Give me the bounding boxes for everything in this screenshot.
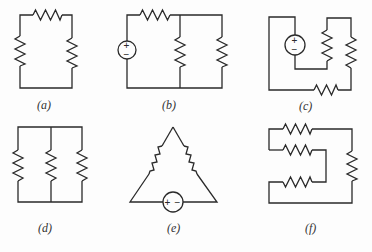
circuit-d: (d)	[13, 127, 87, 235]
resistor-icon	[217, 37, 227, 67]
minus-sign: −	[175, 197, 181, 208]
circuit-b: + − (b)	[118, 10, 227, 112]
resistor-icon	[33, 10, 62, 20]
panel-label: (d)	[38, 221, 52, 235]
circuit-a: (a)	[15, 10, 77, 112]
minus-sign: −	[124, 49, 130, 60]
resistor-icon	[283, 145, 312, 155]
panel-label: (f)	[305, 221, 316, 235]
panel-label: (e)	[167, 221, 180, 235]
resistor-icon	[175, 37, 185, 67]
circuit-e: + − (e)	[130, 127, 217, 235]
minus-sign: −	[292, 44, 298, 55]
resistor-icon	[149, 146, 162, 174]
circuit-c: + − (c)	[269, 17, 356, 113]
resistor-icon	[347, 151, 357, 181]
resistor-icon	[283, 124, 312, 134]
resistor-icon	[314, 85, 338, 95]
panel-label: (b)	[162, 98, 176, 112]
resistor-icon	[346, 37, 356, 68]
wire	[20, 15, 33, 36]
resistor-icon	[67, 38, 77, 68]
resistor-icon	[13, 150, 23, 181]
resistor-icon	[46, 150, 56, 181]
resistor-icon	[77, 150, 87, 181]
circuit-diagrams: (a) + − (b) + − (c)	[0, 0, 372, 252]
circuit-f: (f)	[269, 124, 357, 235]
resistor-icon	[283, 177, 312, 187]
resistor-icon	[15, 36, 25, 66]
resistor-icon	[322, 30, 332, 61]
resistor-icon	[184, 146, 197, 174]
panel-label: (c)	[299, 99, 312, 113]
resistor-icon	[140, 10, 170, 20]
plus-sign: +	[165, 197, 171, 208]
panel-label: (a)	[37, 98, 51, 112]
circuit-figure: (a) + − (b) + − (c)	[0, 0, 372, 252]
